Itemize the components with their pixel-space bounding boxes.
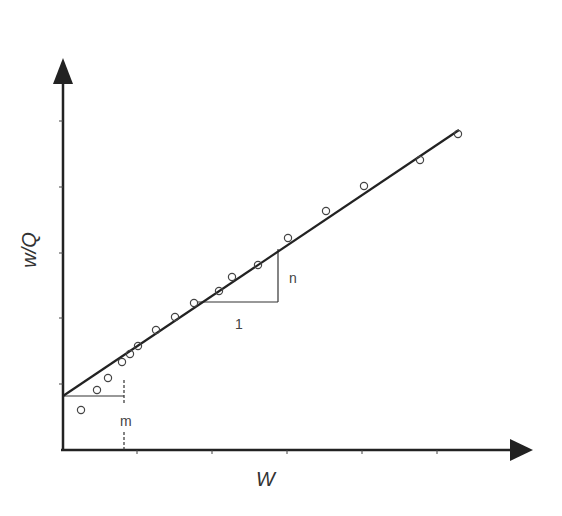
run-label-1: 1: [235, 316, 243, 332]
x-axis-label: W: [256, 468, 275, 491]
data-point: [228, 273, 235, 280]
slope-label-n: n: [289, 270, 297, 286]
x-axis-arrow-icon: [510, 439, 533, 461]
slope-triangle: [198, 249, 278, 302]
axis-ticks: [59, 121, 437, 454]
data-points: [77, 130, 461, 413]
data-point: [322, 207, 329, 214]
intercept-label-m: m: [120, 413, 132, 429]
data-point: [284, 234, 291, 241]
y-axis-label: w/Q: [18, 232, 41, 268]
data-point: [104, 374, 111, 381]
data-point: [77, 406, 84, 413]
y-axis-arrow-icon: [53, 58, 73, 84]
data-point: [93, 386, 100, 393]
data-point: [118, 358, 125, 365]
chart-canvas: [0, 0, 562, 516]
data-point: [190, 299, 197, 306]
data-point: [360, 182, 367, 189]
